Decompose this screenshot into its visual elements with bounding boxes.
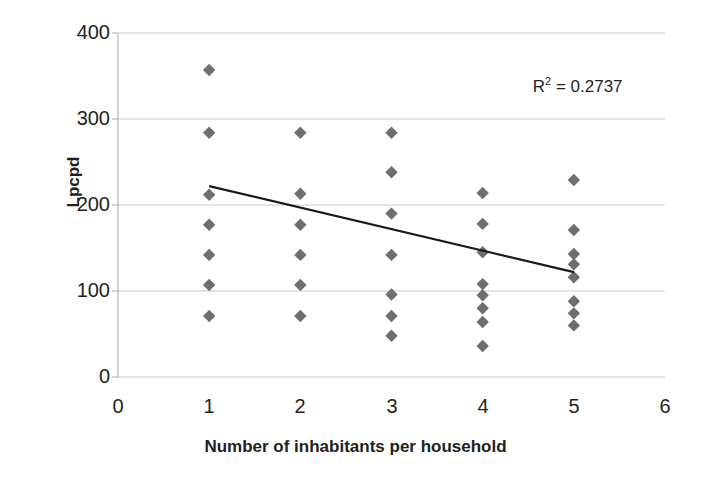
data-point (203, 188, 215, 200)
x-axis-title: Number of inhabitants per household (0, 437, 711, 457)
data-point (568, 295, 580, 307)
data-point (568, 271, 580, 283)
data-point (476, 218, 488, 230)
data-point (203, 249, 215, 261)
data-point (385, 330, 397, 342)
data-point (568, 258, 580, 270)
data-point (203, 279, 215, 291)
xtick-label-0: 0 (98, 396, 138, 416)
data-point (476, 278, 488, 290)
r2-symbol: R (533, 76, 545, 95)
ytick-label-0: 0 (54, 366, 110, 386)
xtick-label-4: 4 (463, 396, 503, 416)
data-point (476, 340, 488, 352)
data-point (203, 219, 215, 231)
data-point (568, 224, 580, 236)
data-point (203, 310, 215, 322)
data-point (385, 207, 397, 219)
data-point (568, 174, 580, 186)
y-axis-title: Lpcpd (64, 122, 84, 242)
data-point (476, 316, 488, 328)
r2-value: = 0.2737 (551, 76, 622, 95)
data-point (568, 319, 580, 331)
data-point (568, 307, 580, 319)
xtick-label-5: 5 (554, 396, 594, 416)
xtick-label-3: 3 (372, 396, 412, 416)
data-point (294, 219, 306, 231)
y-tick-marks (112, 33, 118, 377)
data-point (294, 279, 306, 291)
r2-annotation: R2 = 0.2737 (533, 75, 623, 97)
ytick-label-400: 400 (54, 22, 110, 42)
data-point (203, 64, 215, 76)
ytick-label-100: 100 (54, 280, 110, 300)
data-point (385, 127, 397, 139)
xtick-label-1: 1 (189, 396, 229, 416)
data-point (476, 302, 488, 314)
scatter-chart: 400 300 200 100 0 0 1 2 3 4 5 6 Lpcpd Nu… (0, 0, 711, 483)
data-point (385, 249, 397, 261)
data-point (294, 188, 306, 200)
data-point (294, 310, 306, 322)
data-point (203, 127, 215, 139)
xtick-label-6: 6 (645, 396, 685, 416)
data-point (385, 310, 397, 322)
data-point-series (203, 64, 580, 352)
xtick-label-2: 2 (280, 396, 320, 416)
data-point (385, 166, 397, 178)
data-point (476, 187, 488, 199)
data-point (294, 127, 306, 139)
data-point (385, 288, 397, 300)
data-point (294, 249, 306, 261)
axes (112, 33, 118, 377)
